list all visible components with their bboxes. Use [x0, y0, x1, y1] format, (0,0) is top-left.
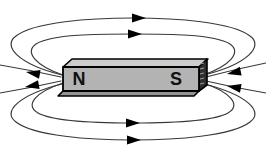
- arrow-right-icon: [128, 30, 142, 39]
- arrow-right-icon: [132, 14, 146, 23]
- arrow-left-icon: [226, 67, 242, 79]
- diagram-canvas: N S: [0, 0, 266, 157]
- magnet-top-face: [63, 59, 208, 67]
- arrow-left-icon: [25, 68, 40, 79]
- bar-magnet-field-diagram: N S: [0, 0, 266, 157]
- south-pole-label: S: [170, 69, 182, 89]
- north-pole-label: N: [73, 69, 86, 89]
- arrow-right-icon: [127, 136, 141, 145]
- bar-magnet: N S: [58, 59, 208, 96]
- arrow-left-icon: [24, 80, 39, 91]
- arrow-right-icon: [126, 119, 140, 128]
